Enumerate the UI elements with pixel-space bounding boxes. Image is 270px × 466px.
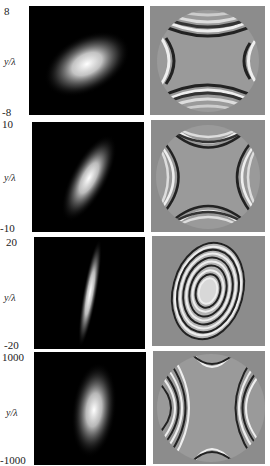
y-tick-top: 20 [6,237,17,248]
beam-spot [66,360,121,461]
y-tick-top: 1000 [2,352,24,363]
amplitude-image [32,122,144,232]
amplitude-panel [34,237,145,349]
y-tick-bottom: -8 [2,107,11,118]
amplitude-image [34,352,146,465]
y-tick-top: 8 [4,6,10,17]
amplitude-panel [29,6,144,115]
amplitude-image [34,237,145,349]
y-tick-bottom: -10 [0,223,15,234]
y-axis-label: y/λ [4,172,16,183]
phase-image [153,351,265,464]
beam-spot [74,238,107,349]
y-axis-label: y/λ [4,292,16,303]
y-axis-label: y/λ [4,56,16,67]
phase-image [150,6,265,115]
amplitude-panel [34,352,146,465]
phase-image [151,120,265,232]
amplitude-panel [32,122,144,232]
phase-panel [153,351,265,464]
y-tick-bottom: -20 [4,340,19,351]
amplitude-image [29,6,144,115]
phase-image [152,236,265,346]
phase-panel [151,120,265,232]
beam-spot [33,18,141,111]
phase-panel [150,6,265,115]
phase-panel [152,236,265,346]
beam-spot [51,127,128,229]
y-tick-bottom: -1000 [0,455,26,466]
y-tick-top: 10 [2,119,13,130]
y-axis-label: y/λ [6,407,18,418]
